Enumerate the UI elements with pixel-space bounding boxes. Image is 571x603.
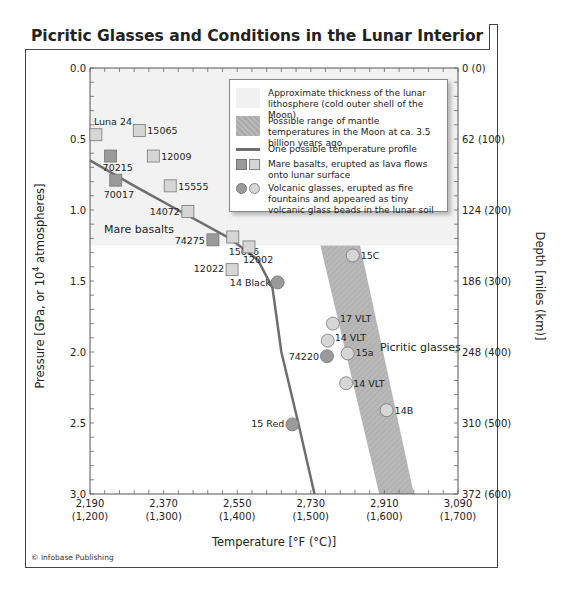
picritic-glass-marker <box>321 334 334 347</box>
y-tick-label-left: 0.0 <box>70 63 86 74</box>
lithosphere-swatch-icon <box>236 88 260 108</box>
picritic-glass-marker <box>346 249 359 262</box>
picritic-glass-label: 74220 <box>289 351 319 362</box>
x-tick-label-f: 2,730 <box>296 498 325 509</box>
y-tick-label-right: 186 (300) <box>462 276 511 287</box>
picritic-glass-label: 14 VLT <box>353 378 385 389</box>
picritic-glasses-annotation: Picritic glasses <box>380 341 461 354</box>
y-tick-label-left: 0.5 <box>70 134 86 145</box>
x-axis-title: Temperature [°F (°C)] <box>211 535 336 549</box>
mare-basalt-marker <box>90 129 102 141</box>
chart-legend: Approximate thickness of the lunar litho… <box>229 79 448 212</box>
x-tick-label-f: 2,190 <box>76 498 105 509</box>
y-tick-label-left: 2.5 <box>70 418 86 429</box>
picritic-glass-marker <box>341 347 354 360</box>
mare-basalt-label: 70215 <box>103 162 133 173</box>
y-tick-label-right: 62 (100) <box>462 134 505 145</box>
picritic-glass-label: 15a <box>356 347 374 358</box>
legend-item-volcanic-glasses: Volcanic glasses, erupted as fire founta… <box>236 183 438 216</box>
mare-basalt-marker <box>182 205 194 217</box>
mare-basalt-marker <box>110 174 122 186</box>
y-tick-label-right: 0 (0) <box>462 63 486 74</box>
x-tick-label-c: (1,300) <box>145 511 182 522</box>
mare-basalt-marker <box>243 241 255 253</box>
mantle-band-swatch-icon <box>236 116 260 136</box>
mare-basalt-label: 15555 <box>178 181 208 192</box>
mare-basalt-marker <box>207 234 219 246</box>
y-axis-title-left: Pressure [GPa, or 104 atmospheres] <box>32 183 47 388</box>
mare-basalt-label: 14072 <box>150 206 180 217</box>
mare-basalt-marker <box>133 124 145 136</box>
picritic-glass-label: 14B <box>395 405 414 416</box>
picritic-glass-label: 15C <box>361 250 380 261</box>
mare-basalts-annotation: Mare basalts <box>104 223 174 236</box>
mare-basalt-label: Luna 24 <box>94 116 132 127</box>
picritic-glass-marker <box>326 317 339 330</box>
x-tick-label-c: (1,500) <box>293 511 330 522</box>
mare-basalt-marker <box>105 150 117 162</box>
x-tick-label-f: 2,550 <box>223 498 252 509</box>
x-tick-label-c: (1,600) <box>366 511 403 522</box>
mare-basalt-label: 12002 <box>243 254 273 265</box>
x-tick-label-f: 3,090 <box>444 498 473 509</box>
y-tick-label-right: 124 (200) <box>462 205 511 216</box>
picritic-glass-marker <box>271 276 284 289</box>
mare-basalt-marker <box>164 180 176 192</box>
y-tick-label-left: 1.5 <box>70 276 86 287</box>
picritic-glass-label: 14 Black <box>230 277 271 288</box>
y-axis-title-right: Depth [miles (km)] <box>533 232 547 341</box>
x-tick-label-f: 2,910 <box>370 498 399 509</box>
picritic-glass-label: 17 VLT <box>340 313 372 324</box>
legend-item-profile: One possible temperature profile <box>236 144 438 155</box>
mare-basalt-label: 15065 <box>147 125 177 136</box>
legend-item-mare-basalts: Mare basalts, erupted as lava flows onto… <box>236 159 438 181</box>
mare-basalt-label: 12009 <box>161 151 191 162</box>
mare-basalt-marker <box>226 264 238 276</box>
credit-text: © Infobase Publishing <box>31 553 114 562</box>
y-tick-label-right: 248 (400) <box>462 347 511 358</box>
square-markers-icon <box>236 159 260 170</box>
x-tick-label-c: (1,400) <box>219 511 256 522</box>
picritic-glass-label: 14 VLT <box>335 332 367 343</box>
profile-line-icon <box>236 148 260 151</box>
picritic-glass-marker <box>340 377 353 390</box>
y-tick-label-left: 1.0 <box>70 205 86 216</box>
mantle-temperature-band <box>320 246 413 495</box>
picritic-glass-label: 15 Red <box>251 418 284 429</box>
mare-basalt-marker <box>147 150 159 162</box>
x-tick-label-f: 2,370 <box>149 498 178 509</box>
picritic-glass-marker <box>286 418 299 431</box>
y-tick-label-right: 310 (500) <box>462 418 511 429</box>
mare-basalt-label: 74275 <box>175 235 205 246</box>
x-tick-label-c: (1,700) <box>440 511 477 522</box>
circle-markers-icon <box>236 183 260 194</box>
x-tick-label-c: (1,200) <box>72 511 109 522</box>
picritic-glass-marker <box>320 350 333 363</box>
mare-basalt-label: 70017 <box>104 189 134 200</box>
mare-basalt-marker <box>227 231 239 243</box>
picritic-glass-marker <box>380 404 393 417</box>
y-tick-label-left: 2.0 <box>70 347 86 358</box>
mare-basalt-label: 12022 <box>194 263 224 274</box>
